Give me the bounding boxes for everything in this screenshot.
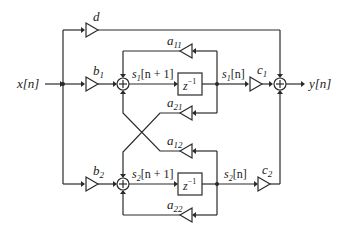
- gain-c2-label: c2: [262, 162, 273, 179]
- gain-d-label: d: [93, 9, 100, 24]
- gain-a12-label: a12: [167, 133, 183, 150]
- gain-b2-label: b2: [93, 163, 105, 180]
- gain-a11-label: a11: [167, 33, 182, 50]
- signal-s2-next-label: s2[n + 1]: [132, 167, 173, 183]
- gain-c2-triangle: [258, 177, 270, 191]
- output-label: y[n]: [307, 76, 331, 91]
- signal-s1-label: s1[n]: [222, 67, 245, 83]
- state-space-block-diagram: x[n] d b1 s1[n + 1] z−1 s1[n] c1: [0, 0, 350, 239]
- output-adder: [274, 78, 286, 90]
- gain-a21-label: a21: [167, 95, 183, 112]
- gain-b1-triangle: [86, 77, 98, 91]
- gain-b2-triangle: [86, 177, 98, 191]
- signal-s1-next-label: s1[n + 1]: [132, 67, 173, 83]
- gain-a22-label: a22: [167, 197, 183, 214]
- adder-1: [117, 78, 129, 90]
- input-label: x[n]: [16, 76, 39, 91]
- gain-b1-label: b1: [93, 63, 104, 80]
- gain-c1-triangle: [250, 77, 262, 91]
- gain-d-triangle: [86, 23, 98, 37]
- adder-2: [117, 178, 129, 190]
- gain-c1-label: c1: [257, 62, 267, 79]
- signal-s2-label: s2[n]: [224, 167, 247, 183]
